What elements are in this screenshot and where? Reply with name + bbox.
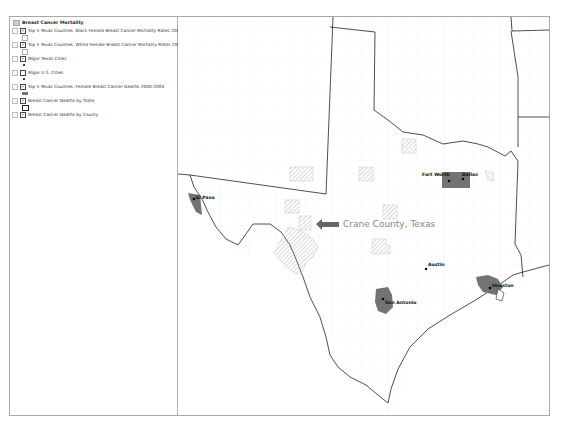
city-label-austin: Austin (428, 262, 445, 267)
layer-checkbox[interactable]: ✓ (20, 112, 26, 118)
layer-deaths-by-county[interactable]: -✓Breast Cancer Deaths by County (12, 112, 98, 118)
collapse-icon[interactable]: - (12, 28, 18, 34)
collapse-icon[interactable]: - (12, 42, 18, 48)
layer-deaths-by-state[interactable]: -✓Breast Cancer Deaths by State (12, 98, 94, 104)
collapse-icon[interactable]: - (12, 70, 18, 76)
hatch-symbol-icon (22, 35, 28, 41)
collapse-icon[interactable]: - (12, 112, 18, 118)
map-window: Breast Cancer Mortality -✓Top 5 Texas Co… (9, 16, 550, 416)
city-label-san-antonio: San Antonio (385, 300, 416, 305)
city-dot-icon (23, 78, 25, 80)
table-of-contents: Breast Cancer Mortality -✓Top 5 Texas Co… (10, 17, 178, 415)
city-label-dallas: Dallas (462, 172, 478, 177)
layer-major-us-cities[interactable]: -Major U.S. Cities (12, 70, 63, 76)
layer-black-female-rates[interactable]: -✓Top 5 Texas Counties, Black Female Bre… (12, 28, 194, 34)
crane-county-annotation: Crane County, Texas (343, 219, 435, 229)
layer-white-female-rates[interactable]: -✓Top 5 Texas Counties, White Female Bre… (12, 42, 195, 48)
layer-checkbox[interactable]: ✓ (20, 42, 26, 48)
map-canvas[interactable]: El Paso Fort Worth Dallas Austin San Ant… (178, 17, 549, 415)
layer-group-icon (13, 20, 20, 26)
city-label-fort-worth: Fort Worth (422, 172, 450, 177)
layer-checkbox[interactable]: ✓ (20, 56, 26, 62)
layer-checkbox[interactable]: ✓ (20, 84, 26, 90)
collapse-icon[interactable]: - (12, 98, 18, 104)
city-label-houston: Houston (492, 283, 514, 288)
layer-checkbox[interactable] (20, 70, 26, 76)
layer-major-texas-cities[interactable]: -✓Major Texas Cities (12, 56, 67, 62)
city-label-el-paso: El Paso (196, 195, 215, 200)
collapse-icon[interactable]: - (12, 56, 18, 62)
collapse-icon[interactable]: - (12, 84, 18, 90)
layer-checkbox[interactable]: ✓ (20, 98, 26, 104)
hatch-symbol-icon (22, 49, 28, 55)
layer-checkbox[interactable]: ✓ (20, 28, 26, 34)
gray-fill-symbol-icon (22, 92, 28, 95)
texas-map (178, 17, 549, 415)
layer-female-deaths[interactable]: -✓Top 5 Texas Counties, Female Breast Ca… (12, 84, 164, 90)
state-outline-symbol-icon (22, 105, 29, 111)
crane-county (299, 216, 311, 230)
toc-group-title[interactable]: Breast Cancer Mortality (13, 20, 84, 26)
city-dot-icon (23, 64, 25, 66)
